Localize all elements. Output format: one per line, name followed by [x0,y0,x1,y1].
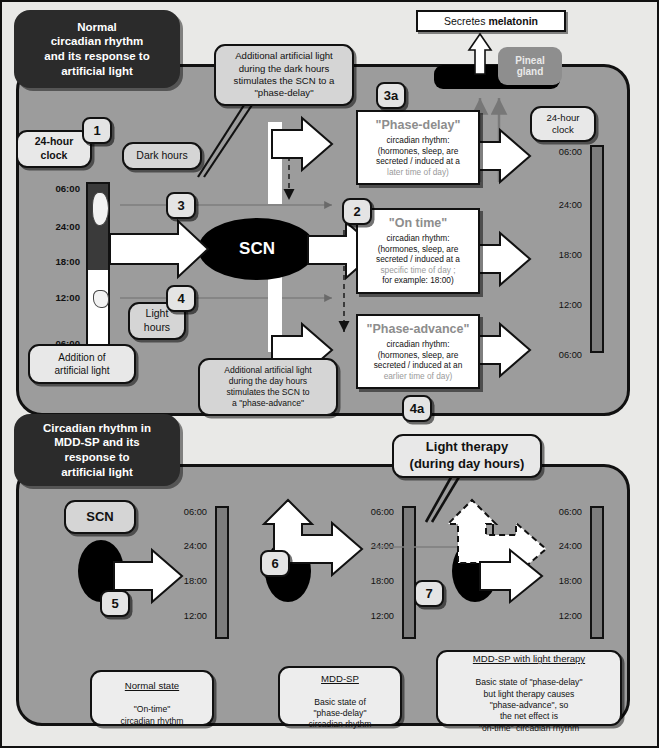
on-time-l3: secreted / induced at a [362,254,474,265]
foot-lt-title: MDD-SP with light therapy [473,653,585,664]
tick-left-2: 24:00 [26,221,80,232]
badge-6: 6 [260,550,290,577]
foot-mdd-body: Basic state of "phase-delay" circadian r… [308,697,371,730]
tick-b3-1: 06:00 [532,507,582,517]
phase-advance-head: "Phase-advance" [362,321,474,337]
tick-b1-4: 12:00 [157,611,207,621]
tick-b2-4: 12:00 [344,611,394,621]
secretes-melatonin-label: Secretes melatonin [416,10,566,32]
infobox-phase-advance: "Phase-advance" circadian rhythm: (hormo… [356,314,480,389]
tick-b1-2: 24:00 [157,541,207,551]
tick-right-1: 06:00 [532,147,582,157]
on-time-l2: (hormones, sleep, are [362,244,474,255]
clockbar-bottom-1 [215,506,229,639]
title-mdd-sp: Circadian rhythm in MDD-SP and its respo… [14,414,180,486]
phase-delay-head: "Phase-delay" [362,117,474,133]
phase-advance-l4: earlier time of day) [362,371,474,382]
foot-normal-title: Normal state [125,680,179,691]
clockbar-right-top [590,145,604,353]
tick-b3-2: 24:00 [532,541,582,551]
footbubble-mdd-sp: MDD-SP Basic state of "phase-delay" circ… [278,666,402,726]
bubble-additional-light-dark-hours: Additional artificial light during the d… [214,44,354,106]
melatonin-prefix: Secretes [444,15,485,27]
phase-delay-l4: later time of day) [362,167,474,178]
phase-delay-l2: (hormones, sleep, are [362,146,474,157]
tick-b2-2: 24:00 [344,541,394,551]
tick-right-5: 06:00 [532,350,582,360]
tick-b2-3: 18:00 [344,576,394,586]
badge-1: 1 [82,117,112,144]
badge-3: 3 [166,192,196,219]
bubble-scn-bottom: SCN [64,500,136,534]
phase-advance-l3: secreted / induced at an [362,360,474,371]
foot-mdd-title: MDD-SP [321,673,359,684]
scn-label: SCN [239,239,275,259]
footbubble-normal-state: Normal state "On-time" circadian rhythm [90,670,214,726]
tick-right-3: 18:00 [532,250,582,260]
bubble-light-therapy: Light therapy (during day hours) [392,434,542,478]
artificial-light-blob-day [93,290,109,308]
tick-b1-3: 18:00 [157,576,207,586]
bubble-additional-light-day-hours: Additional artificial light during the d… [198,358,338,416]
badge-4: 4 [166,285,196,312]
tick-b1-1: 06:00 [157,507,207,517]
phase-delay-l1: circadian rhythm: [362,135,474,146]
badge-4a: 4a [402,395,432,422]
on-time-head: "On time" [362,215,474,231]
title-normal-circadian: Normal circadian rhythm and its response… [14,10,180,88]
foot-normal-body: "On-time" circadian rhythm [120,704,183,725]
tick-left-3: 18:00 [26,256,80,267]
clockbar-bottom-3 [590,506,604,639]
pineal-gland-label: Pineal gland [498,47,562,85]
scn-oval-top: SCN [198,218,316,280]
tick-b2-1: 06:00 [344,507,394,517]
infobox-phase-delay: "Phase-delay" circadian rhythm: (hormone… [356,110,480,185]
on-time-l4: specific time of day ; [362,265,474,276]
bubble-24h-clock-left: 24-hour clock [16,130,92,168]
on-time-l1: circadian rhythm: [362,233,474,244]
tick-b3-3: 18:00 [532,576,582,586]
melatonin-bold: melatonin [488,15,538,27]
tick-b3-4: 12:00 [532,611,582,621]
tick-left-4: 12:00 [26,292,80,303]
badge-7: 7 [414,580,444,607]
bubble-addition-artificial-light: Addition of artificial light [28,344,136,384]
bubble-dark-hours: Dark hours [122,142,202,170]
clockbar-bottom-2 [402,506,416,639]
foot-lt-body: Basic state of "phase-delay" but light t… [476,677,583,732]
scn-oval-7 [452,540,498,602]
on-time-l5: for example: 18:00) [362,275,474,286]
phase-delay-l3: secreted / induced at a [362,156,474,167]
badge-2: 2 [342,198,372,225]
footbubble-mdd-sp-light-therapy: MDD-SP with light therapy Basic state of… [436,650,622,726]
diagram-root: 06:00 24:00 18:00 12:00 06:00 06:00 24:0… [0,0,659,748]
phase-advance-l1: circadian rhythm: [362,339,474,350]
tick-left-1: 06:00 [26,183,80,194]
badge-3a: 3a [376,82,406,109]
infobox-on-time: "On time" circadian rhythm: (hormones, s… [356,208,480,294]
tick-right-4: 12:00 [532,300,582,310]
badge-5: 5 [100,590,130,617]
bubble-24h-clock-right: 24-hour clock [530,106,596,142]
phase-advance-l2: (hormones, sleep, are [362,350,474,361]
tick-right-2: 24:00 [532,200,582,210]
